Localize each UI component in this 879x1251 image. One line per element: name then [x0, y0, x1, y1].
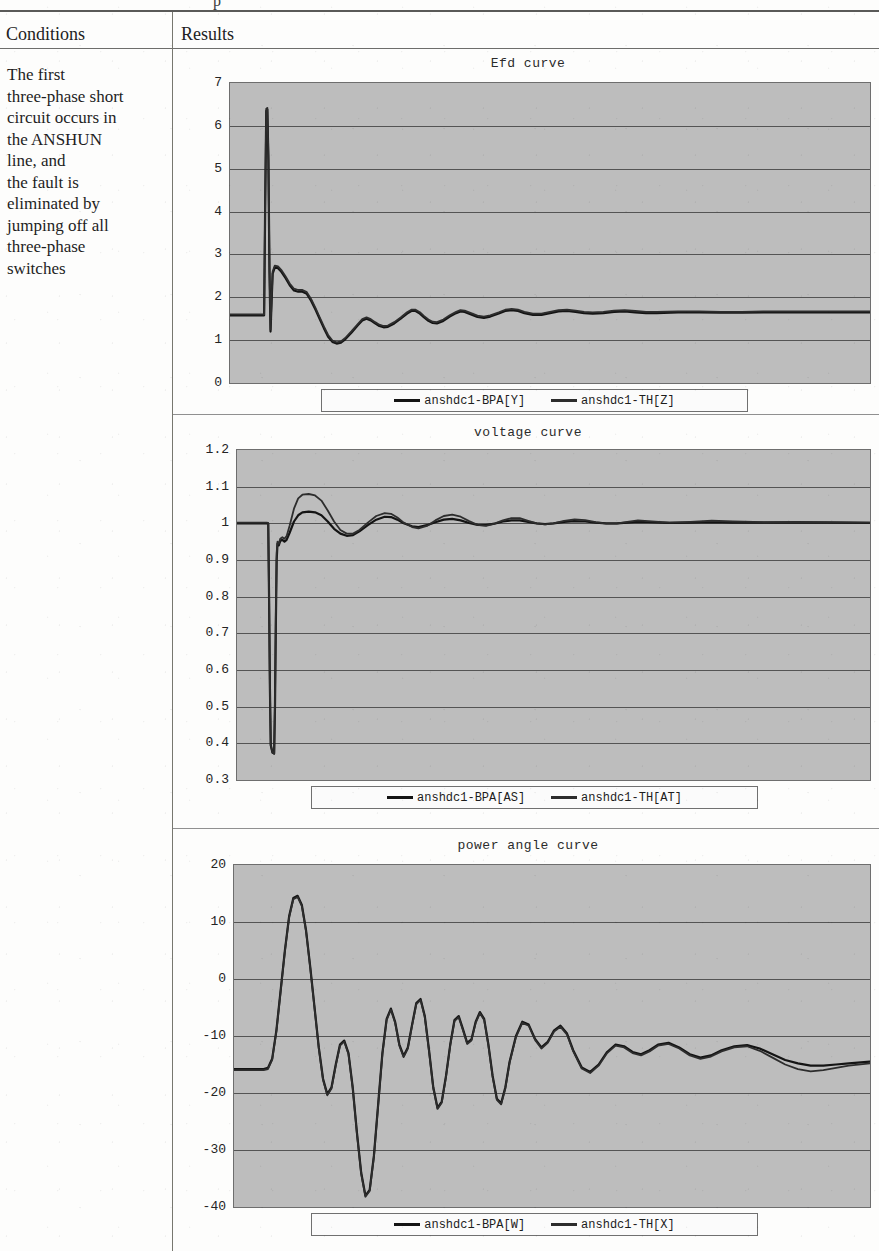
conditions-cell-text: The firstthree-phase shortcircuit occurs…	[7, 64, 167, 279]
series-path	[237, 494, 870, 754]
y-axis-tick-label: 20	[181, 857, 226, 872]
y-axis-tick-label: 0	[181, 971, 226, 986]
y-axis-tick-label: 0	[181, 375, 222, 390]
series-path	[237, 512, 870, 754]
series-path	[230, 108, 870, 342]
conditions-line: three-phase short	[7, 86, 167, 108]
curve-canvas-voltage	[237, 450, 870, 780]
y-axis-tick-label: 0.5	[181, 698, 229, 713]
y-axis-tick-label: 7	[181, 75, 222, 90]
y-axis-tick-label: 1	[181, 515, 229, 530]
y-axis-tick-label: -10	[181, 1028, 226, 1043]
chart-title-efd: Efd curve	[181, 56, 875, 71]
y-axis-tick-label: 6	[181, 117, 222, 132]
y-axis-tick-label: -30	[181, 1142, 226, 1157]
plot-area-power-angle	[233, 864, 871, 1208]
conditions-line: the ANSHUN	[7, 129, 167, 151]
legend-color-swatch	[551, 1223, 577, 1226]
page-top-rule	[0, 10, 879, 12]
conditions-line: the fault is	[7, 172, 167, 194]
legend-color-swatch	[551, 399, 577, 402]
chart-efd-curve: Efd curve 01234567anshdc1-BPA[Y]anshdc1-…	[181, 56, 875, 408]
y-axis-tick-label: -20	[181, 1085, 226, 1100]
curve-canvas-power-angle	[234, 865, 870, 1207]
row-divider-1	[173, 414, 879, 415]
series-path	[234, 897, 870, 1197]
row-divider-2	[173, 828, 879, 829]
conditions-line: jumping off all	[7, 215, 167, 237]
conditions-line: The first	[7, 64, 167, 86]
table-column-divider	[172, 12, 173, 1251]
y-axis-tick-label: 0.9	[181, 552, 229, 567]
legend-item: anshdc1-BPA[W]	[394, 1218, 525, 1232]
plot-area-efd	[229, 82, 871, 384]
curve-canvas-efd	[230, 83, 870, 383]
y-axis-tick-label: 5	[181, 160, 222, 175]
y-axis-tick-label: 1.1	[181, 478, 229, 493]
chart-title-power-angle: power angle curve	[181, 838, 875, 853]
legend-color-swatch	[387, 796, 413, 799]
y-axis-tick-label: 4	[181, 203, 222, 218]
legend-color-swatch	[394, 399, 420, 402]
y-axis-tick-label: 2	[181, 289, 222, 304]
legend-item: anshdc1-TH[AT]	[551, 791, 682, 805]
legend-item: anshdc1-TH[X]	[551, 1218, 675, 1232]
y-axis-tick-label: -40	[181, 1199, 226, 1214]
y-axis-tick-label: 0.6	[181, 662, 229, 677]
conditions-line: line, and	[7, 150, 167, 172]
table-header-rule	[0, 48, 879, 49]
y-axis-tick-label: 0.8	[181, 588, 229, 603]
legend-item: anshdc1-BPA[AS]	[387, 791, 525, 805]
legend-power-angle: anshdc1-BPA[W]anshdc1-TH[X]	[311, 1213, 758, 1236]
legend-efd: anshdc1-BPA[Y]anshdc1-TH[Z]	[321, 389, 748, 412]
y-axis-tick-label: 0.7	[181, 625, 229, 640]
legend-color-swatch	[394, 1223, 420, 1226]
legend-voltage: anshdc1-BPA[AS]anshdc1-TH[AT]	[311, 786, 758, 809]
y-axis-tick-label: 0.4	[181, 735, 229, 750]
legend-label: anshdc1-TH[Z]	[581, 394, 675, 408]
conditions-line: eliminated by	[7, 193, 167, 215]
conditions-line: three-phase	[7, 236, 167, 258]
legend-color-swatch	[551, 796, 577, 799]
conditions-line: switches	[7, 258, 167, 280]
legend-item: anshdc1-BPA[Y]	[394, 394, 525, 408]
column-header-conditions: Conditions	[6, 24, 85, 45]
legend-item: anshdc1-TH[Z]	[551, 394, 675, 408]
chart-power-angle-curve: power angle curve -40-30-20-1001020anshd…	[181, 838, 875, 1238]
legend-label: anshdc1-TH[AT]	[581, 791, 682, 805]
y-axis-tick-label: 1	[181, 332, 222, 347]
conditions-line: circuit occurs in	[7, 107, 167, 129]
legend-label: anshdc1-BPA[Y]	[424, 394, 525, 408]
y-axis-tick-label: 0.3	[181, 772, 229, 787]
legend-label: anshdc1-BPA[W]	[424, 1218, 525, 1232]
legend-label: anshdc1-TH[X]	[581, 1218, 675, 1232]
series-path	[230, 110, 870, 344]
chart-title-voltage: voltage curve	[181, 425, 875, 440]
series-path	[234, 896, 870, 1196]
legend-label: anshdc1-BPA[AS]	[417, 791, 525, 805]
plot-area-voltage	[236, 449, 871, 781]
chart-voltage-curve: voltage curve 0.30.40.50.60.70.80.911.11…	[181, 425, 875, 810]
column-header-results: Results	[181, 24, 234, 45]
y-axis-tick-label: 1.2	[181, 442, 229, 457]
y-axis-tick-label: 3	[181, 246, 222, 261]
y-axis-tick-label: 10	[181, 914, 226, 929]
scan-text-fragment: p	[213, 0, 221, 10]
document-page: p Conditions Results The firstthree-phas…	[0, 0, 879, 1251]
